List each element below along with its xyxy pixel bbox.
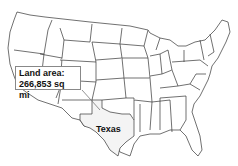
land-area-callout: Land area: 266,853 sq mi [15,66,81,90]
us-map: Land area: 266,853 sq mi Texas [0,0,238,166]
callout-line2: 266,853 sq mi [19,79,77,101]
callout-line1: Land area: [19,68,77,79]
texas-label: Texas [96,124,121,134]
